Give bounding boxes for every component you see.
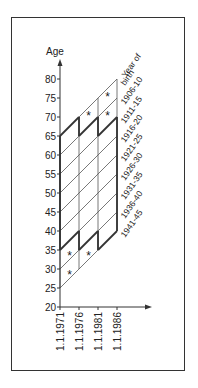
y-tick-label: 45 bbox=[45, 207, 57, 218]
x-tick-label: 1.1.1981 bbox=[93, 312, 104, 351]
y-tick-label: 60 bbox=[45, 150, 57, 161]
asterisk-marker: * bbox=[105, 90, 110, 104]
bold-outline bbox=[60, 231, 79, 250]
y-tick-label: 25 bbox=[45, 283, 57, 294]
x-tick-label: 1.1.1971 bbox=[55, 312, 66, 351]
bold-outline bbox=[79, 231, 98, 250]
asterisk-marker: * bbox=[105, 109, 110, 123]
x-axis-arrow-icon bbox=[145, 305, 152, 310]
y-tick-label: 80 bbox=[45, 74, 57, 85]
bold-outline bbox=[98, 231, 117, 250]
x-tick-label: 1.1.1986 bbox=[112, 312, 123, 351]
y-tick-label: 70 bbox=[45, 112, 57, 123]
cohort-line bbox=[60, 136, 117, 193]
asterisk-marker: * bbox=[67, 268, 72, 282]
y-tick-label: 55 bbox=[45, 169, 57, 180]
y-tick-label: 30 bbox=[45, 264, 57, 275]
lexis-diagram: 20253035404550556065707580Age1.1.19711.1… bbox=[0, 0, 198, 388]
asterisk-marker: * bbox=[67, 249, 72, 263]
bold-outline bbox=[60, 117, 79, 136]
y-tick-label: 35 bbox=[45, 245, 57, 256]
y-tick-label: 40 bbox=[45, 226, 57, 237]
y-axis-label: Age bbox=[46, 46, 64, 57]
asterisk-marker: * bbox=[86, 109, 91, 123]
asterisk-marker: * bbox=[86, 249, 91, 263]
asterisk-markers: ****** bbox=[67, 90, 110, 283]
y-tick-label: 75 bbox=[45, 93, 57, 104]
y-tick-label: 20 bbox=[45, 302, 57, 313]
y-tick-label: 65 bbox=[45, 131, 57, 142]
cohort-line bbox=[60, 155, 117, 212]
cohort-line bbox=[60, 174, 117, 231]
y-tick-label: 50 bbox=[45, 188, 57, 199]
x-tick-label: 1.1.1976 bbox=[74, 312, 85, 351]
y-axis-arrow-icon bbox=[58, 59, 63, 66]
